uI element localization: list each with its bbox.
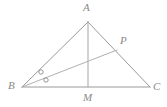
angle-mark-circle-upper — [39, 70, 43, 74]
vertex-label-b: B — [8, 80, 15, 91]
vertex-label-a: A — [83, 2, 90, 13]
segment-AC — [88, 22, 150, 87]
cevians — [22, 22, 117, 87]
segment-AB — [22, 22, 88, 87]
angle-mark-circle-lower — [44, 78, 48, 82]
segment-BP — [22, 50, 117, 87]
vertex-label-c: C — [153, 81, 160, 92]
geometry-figure: A B C P M — [0, 0, 167, 107]
triangle-outline — [22, 22, 150, 87]
point-label-m: M — [83, 92, 92, 103]
point-label-p: P — [120, 35, 127, 46]
